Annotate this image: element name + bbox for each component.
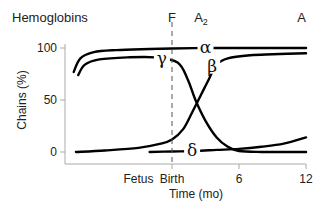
series-label-alpha: α [200, 37, 212, 57]
hemoglobin-label: F [168, 10, 176, 25]
series-line-gamma [78, 57, 306, 152]
series-label-gamma: γ [157, 48, 167, 68]
y-tick-label: 100 [37, 41, 57, 55]
series-label-delta: δ [187, 140, 197, 160]
x-tick-label: 12 [299, 172, 313, 186]
x-tick-label: Birth [160, 172, 185, 186]
subscript: 2 [203, 17, 208, 27]
series-line-alpha [74, 48, 306, 72]
y-axis-label: Chains (%) [15, 70, 29, 129]
hemoglobin-label: A [297, 10, 306, 25]
hemoglobin-chart: Hemoglobins Chains (%) Time (mo) 050100F… [0, 0, 336, 214]
x-tick-label: Fetus [123, 172, 153, 186]
series-label-beta: β [207, 56, 217, 76]
chart-container: Hemoglobins Chains (%) Time (mo) 050100F… [0, 0, 336, 214]
series-line-beta [76, 53, 306, 152]
y-tick-label: 0 [50, 145, 57, 159]
x-tick-label: 6 [236, 172, 243, 186]
hemoglobin-label: A2 [194, 10, 208, 27]
chart-title: Hemoglobins [12, 10, 88, 25]
y-tick-label: 50 [44, 93, 58, 107]
series-group: αγβδ [74, 37, 306, 160]
x-axis-label: Time (mo) [169, 187, 223, 201]
